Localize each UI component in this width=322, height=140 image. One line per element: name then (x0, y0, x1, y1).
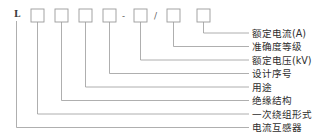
leader-line-1 (204, 22, 250, 33)
leader-line-4 (110, 22, 250, 74)
label-usage: 用途 (252, 82, 272, 93)
label-primary-winding-form: 一次绕组形式 (252, 109, 312, 120)
diagram-canvas: L - / 额定电流(A) 准确度等级 额定电压(kV) 设计序号 用途 (0, 0, 322, 140)
code-box-7[interactable] (197, 9, 210, 22)
slash-separator: / (154, 11, 158, 21)
leader-line-2 (174, 22, 250, 47)
label-current-transformer: 电流互感器 (252, 122, 302, 133)
code-box-3[interactable] (79, 9, 92, 22)
leader-line-6 (62, 22, 250, 101)
leader-line-3 (141, 22, 250, 60)
code-box-6[interactable] (167, 9, 180, 22)
leader-line-8 (17, 21, 250, 128)
label-design-serial-number: 设计序号 (252, 68, 292, 79)
dash-separator: - (122, 11, 125, 21)
label-accuracy-class: 准确度等级 (252, 41, 302, 52)
label-rated-current: 额定电流(A) (252, 28, 306, 39)
label-rated-voltage: 额定电压(kV) (252, 55, 312, 66)
code-box-5[interactable] (134, 9, 147, 22)
code-box-4[interactable] (103, 9, 116, 22)
label-insulation-structure: 绝缘结构 (252, 95, 292, 106)
transformer-model-designation-diagram: L - / 额定电流(A) 准确度等级 额定电压(kV) 设计序号 用途 (0, 0, 322, 140)
code-box-1[interactable] (31, 9, 44, 22)
code-box-2[interactable] (55, 9, 68, 22)
leader-line-5 (86, 22, 250, 87)
prefix-character: L (14, 9, 21, 19)
